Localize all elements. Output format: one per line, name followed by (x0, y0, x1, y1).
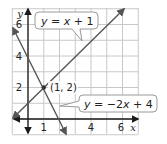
callout2-tail: + 4 (129, 98, 152, 111)
callout1-tail: + 1 (70, 15, 93, 28)
intersection-point (42, 85, 46, 89)
intersection-label: (1, 2) (50, 82, 77, 93)
y-tick-2: 2 (16, 82, 22, 93)
graph-canvas: 6 4 2 1 4 6 y x (1, 2) y = x + 1 y = −2x… (0, 0, 167, 144)
callout2-eq: = −2 (91, 98, 123, 111)
x-axis-label: x (130, 122, 136, 133)
y-tick-6: 6 (16, 19, 22, 30)
callout-y-equals-neg2x-plus-4: y = −2x + 4 (60, 95, 157, 112)
x-tick-4: 4 (88, 122, 94, 133)
x-tick-6: 6 (118, 122, 124, 133)
svg-text:y = x + 1: y = x + 1 (40, 15, 93, 28)
x-tick-1: 1 (41, 122, 47, 133)
callout-y-equals-x-plus-1: y = x + 1 (35, 12, 98, 41)
callout1-eq: = (48, 15, 64, 28)
svg-text:y = −2x + 4: y = −2x + 4 (83, 98, 153, 111)
y-axis-label: y (16, 8, 23, 19)
y-tick-4: 4 (16, 51, 22, 62)
